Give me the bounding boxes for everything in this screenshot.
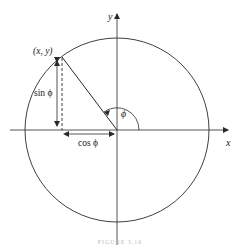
radius-line (62, 57, 117, 130)
unit-circle-diagram: x y (x, y) sin ϕ cos ϕ ϕ (0, 0, 240, 252)
y-axis-label: y (107, 11, 113, 22)
angle-label: ϕ (121, 108, 126, 119)
sin-label: sin ϕ (34, 88, 52, 98)
sin-arrow-head-top (54, 60, 60, 66)
point-label: (x, y) (33, 46, 53, 57)
cos-label: cos ϕ (78, 138, 98, 148)
x-axis-label: x (225, 137, 231, 148)
figure-caption: FIGURE 3.16 (0, 239, 240, 245)
cos-arrow-head-left (63, 131, 69, 137)
